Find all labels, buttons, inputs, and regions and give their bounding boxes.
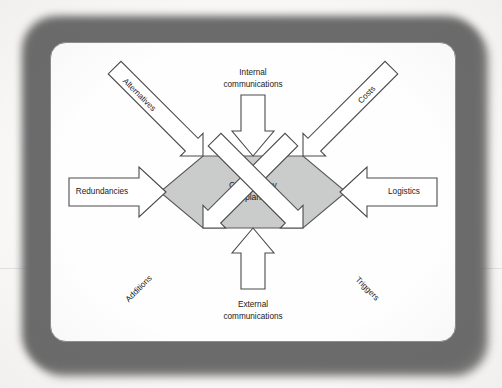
arrow-costs[interactable]: Costs bbox=[292, 56, 403, 167]
arrow-additions-label: Additions bbox=[124, 274, 154, 304]
arrow-alternatives-shape bbox=[103, 56, 214, 167]
arrow-costs-shape bbox=[292, 56, 403, 167]
arrow-internal-communications[interactable]: Internal communications bbox=[223, 68, 282, 156]
contingency-plan-diagram: Contingency plan Alternatives Internal c… bbox=[51, 43, 455, 341]
screenshot-root: Contingency plan Alternatives Internal c… bbox=[0, 0, 502, 388]
arrow-internal-communications-label-line2: communications bbox=[223, 80, 282, 89]
diagram-card: Contingency plan Alternatives Internal c… bbox=[50, 42, 456, 342]
arrow-external-communications-shape bbox=[232, 228, 274, 289]
arrow-redundancies[interactable]: Redundancies bbox=[69, 167, 166, 217]
arrow-internal-communications-label-line1: Internal bbox=[239, 68, 266, 77]
arrow-logistics[interactable]: Logistics bbox=[340, 167, 437, 217]
diagram-stage: Contingency plan Alternatives Internal c… bbox=[51, 43, 455, 341]
arrow-logistics-label: Logistics bbox=[388, 187, 420, 196]
arrow-external-communications-label-line1: External bbox=[238, 300, 268, 309]
arrow-redundancies-label: Redundancies bbox=[76, 187, 128, 196]
arrow-alternatives[interactable]: Alternatives bbox=[103, 56, 214, 167]
arrow-external-communications-label-line2: communications bbox=[223, 312, 282, 321]
arrow-external-communications[interactable]: External communications bbox=[223, 228, 282, 321]
arrow-triggers-label: Triggers bbox=[354, 275, 381, 302]
arrow-internal-communications-shape bbox=[232, 95, 274, 156]
